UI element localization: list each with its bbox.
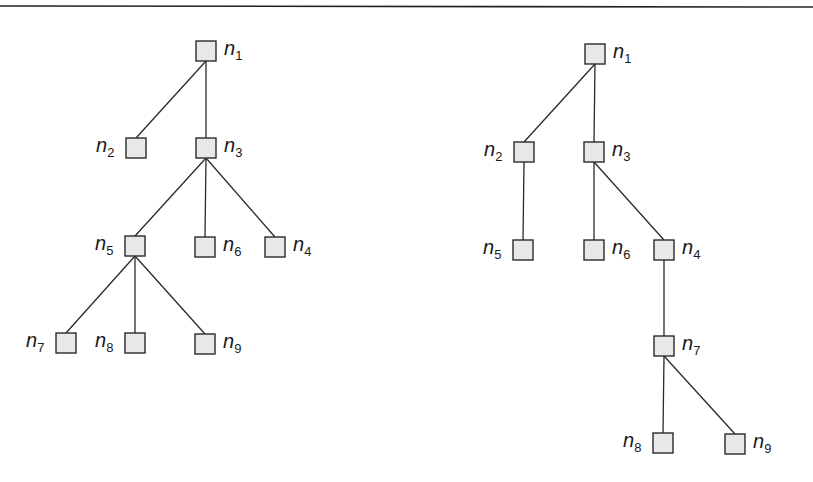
node-n8: n8 [95,329,145,355]
node-n6: n6 [195,233,241,259]
node-label: n5 [95,232,113,258]
node-label: n2 [484,138,502,164]
node-label: n6 [223,233,241,259]
edge-n3-n6 [205,158,206,237]
node-n2: n2 [96,134,146,160]
node-label: n7 [26,329,44,355]
node-label: n8 [95,329,113,355]
node-label: n2 [96,134,114,160]
node-box [195,334,215,354]
node-n9: n9 [195,330,241,356]
node-n7: n7 [26,329,76,355]
node-box [125,333,145,353]
node-box [56,333,76,353]
top-rule-divider [0,6,813,7]
node-n3: n3 [584,138,630,164]
node-n4: n4 [265,233,311,259]
node-label: n1 [613,40,631,66]
node-box [195,237,215,257]
node-box [126,138,146,158]
node-label: n4 [293,233,311,259]
node-label: n3 [224,134,242,160]
node-box [196,41,216,61]
edge-n5-n9 [135,256,205,334]
node-box [265,237,285,257]
tree-diagram-canvas: n1n2n3n5n6n4n7n8n9 n1n2n3n5n6n4n7n8n9 [0,0,813,482]
node-n2: n2 [484,138,534,164]
node-box [584,142,604,162]
node-box [654,336,674,356]
node-n3: n3 [196,134,242,160]
edge-n1-n2 [136,61,206,138]
node-box [725,434,745,454]
node-n8: n8 [623,429,673,455]
edge-n7-n8 [663,356,664,433]
node-n9: n9 [725,430,771,456]
node-label: n1 [224,37,242,63]
edge-n3-n5 [135,158,206,236]
node-box [653,433,673,453]
tree-right: n1n2n3n5n6n4n7n8n9 [483,40,771,456]
edge-n3-n4 [206,158,275,237]
edge-n7-n9 [664,356,735,434]
node-n1: n1 [585,40,631,66]
node-box [654,240,674,260]
node-box [585,44,605,64]
node-label: n4 [682,236,700,262]
node-box [514,142,534,162]
node-label: n7 [682,332,700,358]
edge-n2-n5 [523,162,524,240]
edge-n3-n4 [594,162,664,240]
edge-n5-n7 [66,256,135,333]
node-n6: n6 [584,236,630,262]
node-n7: n7 [654,332,700,358]
node-n1: n1 [196,37,242,63]
node-box [125,236,145,256]
edge-n1-n3 [594,64,595,142]
node-label: n9 [753,430,771,456]
node-label: n8 [623,429,641,455]
node-box [196,138,216,158]
edge-n1-n2 [524,64,595,142]
node-box [513,240,533,260]
node-label: n5 [483,236,501,262]
node-box [584,240,604,260]
node-n5: n5 [95,232,145,258]
tree-left: n1n2n3n5n6n4n7n8n9 [26,37,311,356]
node-label: n9 [223,330,241,356]
node-n5: n5 [483,236,533,262]
node-label: n3 [612,138,630,164]
node-label: n6 [612,236,630,262]
node-n4: n4 [654,236,700,262]
